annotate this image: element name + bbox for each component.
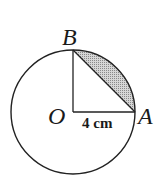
- circle-diagram: B O A 4 cm: [0, 0, 166, 180]
- label-o: O: [48, 103, 65, 129]
- label-b: B: [62, 24, 77, 50]
- label-a: A: [136, 103, 153, 129]
- diagram-canvas: B O A 4 cm: [0, 0, 166, 180]
- radius-measurement: 4 cm: [82, 115, 113, 131]
